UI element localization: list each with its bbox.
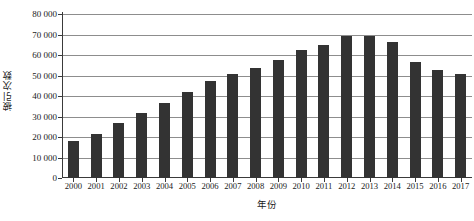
y-axis-tick-label: 30 000	[32, 112, 57, 122]
x-axis-tick-label: 2013	[361, 181, 378, 191]
y-axis-tick-labels: 010 00020 00030 00040 00050 00060 00070 …	[16, 0, 60, 190]
bar	[296, 50, 307, 178]
y-axis-tick-label: 80 000	[32, 9, 57, 19]
bar	[432, 70, 443, 178]
x-axis-tick-label: 2010	[293, 181, 310, 191]
y-axis-title-label: 被引次数	[1, 69, 15, 111]
x-axis-tick-label: 2002	[110, 181, 127, 191]
x-axis-title-label: 年份	[257, 199, 278, 210]
bar	[68, 141, 79, 178]
y-axis-title: 被引次数	[0, 0, 16, 180]
x-axis-tick-label: 2011	[316, 181, 333, 191]
plot-area	[62, 14, 472, 178]
bar	[410, 62, 421, 178]
x-axis-tick-label: 2006	[201, 181, 218, 191]
bar	[113, 123, 124, 178]
x-axis-tick-label: 2015	[406, 181, 423, 191]
bar-chart: 被引次数 010 00020 00030 00040 00050 00060 0…	[0, 0, 474, 221]
x-axis-tick-label: 2016	[429, 181, 446, 191]
bar	[455, 74, 466, 178]
bar	[91, 134, 102, 178]
bar	[182, 92, 193, 178]
bar	[159, 103, 170, 178]
x-axis-tick-label: 2017	[452, 181, 469, 191]
bar	[273, 60, 284, 178]
bars-layer	[62, 14, 472, 178]
x-axis-title: 年份	[62, 197, 472, 211]
x-axis-tick-label: 2004	[156, 181, 173, 191]
x-axis-tick-label: 2012	[338, 181, 355, 191]
x-axis-tick-label: 2007	[224, 181, 241, 191]
y-axis-tick-mark	[58, 178, 62, 179]
x-axis-tick-label: 2014	[384, 181, 401, 191]
x-axis-tick-label: 2000	[65, 181, 82, 191]
x-axis-tick-label: 2008	[247, 181, 264, 191]
y-axis-tick-label: 70 000	[32, 30, 57, 40]
y-axis-tick-label: 20 000	[32, 132, 57, 142]
bar	[250, 68, 261, 178]
x-axis-tick-labels: 2000200120022003200420052006200720082009…	[62, 181, 472, 195]
bar	[364, 36, 375, 178]
y-axis-tick-label: 10 000	[32, 153, 57, 163]
y-axis-tick-label: 0	[53, 173, 58, 183]
bar	[227, 74, 238, 178]
x-axis-tick-label: 2003	[133, 181, 150, 191]
x-axis-tick-label: 2001	[88, 181, 105, 191]
y-axis-tick-label: 60 000	[32, 50, 57, 60]
y-axis-tick-label: 40 000	[32, 91, 57, 101]
bar	[341, 36, 352, 178]
bar	[387, 42, 398, 178]
y-axis-tick-label: 50 000	[32, 71, 57, 81]
bar	[318, 45, 329, 178]
bar	[205, 81, 216, 178]
bar	[136, 113, 147, 178]
x-axis-tick-label: 2005	[179, 181, 196, 191]
x-axis-tick-label: 2009	[270, 181, 287, 191]
